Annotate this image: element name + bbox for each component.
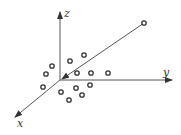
data-point: [67, 98, 71, 102]
data-point: [50, 64, 54, 68]
axis-labels: zyx: [17, 7, 170, 130]
y-axis-label: y: [162, 66, 170, 79]
x-axis-label: x: [17, 117, 24, 130]
data-point: [80, 93, 84, 97]
data-point: [106, 71, 110, 75]
data-point: [142, 21, 146, 25]
data-point: [59, 90, 63, 94]
data-point: [88, 83, 92, 87]
diagram-canvas: zyx: [0, 0, 181, 135]
axes-group: [15, 12, 172, 117]
data-point: [68, 59, 72, 63]
data-point: [44, 72, 48, 76]
data-point: [75, 71, 79, 75]
data-point: [82, 53, 86, 57]
vector-line: [62, 23, 144, 79]
scatter-points: [41, 21, 146, 102]
data-point: [41, 85, 45, 89]
vector-line-arrow: [62, 23, 144, 79]
z-axis-label: z: [63, 7, 70, 20]
x-axis: [15, 80, 60, 117]
data-point: [74, 86, 78, 90]
data-point: [89, 71, 93, 75]
